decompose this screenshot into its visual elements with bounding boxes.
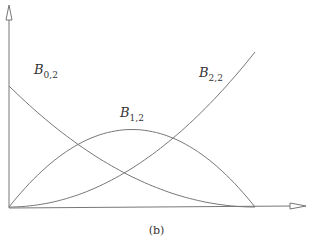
y-axis-arrow-icon [6, 5, 12, 20]
bernstein-basis-figure: B0,2 B1,2 B2,2 (b) [0, 0, 313, 241]
figure-caption: (b) [0, 224, 313, 237]
plot-area [0, 0, 313, 241]
label-b02: B0,2 [34, 62, 58, 80]
label-b12: B1,2 [120, 105, 144, 123]
label-b22: B2,2 [199, 65, 223, 83]
x-axis-arrow-icon [290, 203, 306, 209]
